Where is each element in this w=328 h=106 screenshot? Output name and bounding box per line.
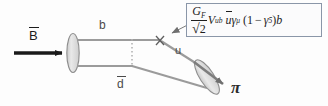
fraction-denominator: √2: [191, 22, 207, 36]
u-spinor-bar: u: [226, 13, 232, 28]
label-dbar-quark-text: d: [117, 77, 124, 91]
feynman-diagram-figure: B b d u π GF √2 Vub uγμ (1 − γ5)b: [0, 0, 328, 106]
paren-open: (1: [243, 13, 253, 28]
label-incoming-bbar: B: [29, 27, 39, 42]
fermi-constant-fraction: GF √2: [191, 5, 207, 37]
ckm-subscript: ub: [215, 16, 223, 25]
label-incoming-bbar-text: B: [29, 28, 38, 43]
weak-vertex-formula: GF √2 Vub uγμ (1 − γ5)b: [191, 5, 319, 36]
fraction-numerator: GF: [191, 5, 206, 20]
ckm-symbol: V: [208, 13, 215, 28]
label-outgoing-pion: π: [231, 79, 240, 96]
gamma-subscript: μ: [236, 16, 240, 25]
weak-vertex-formula-box: GF √2 Vub uγμ (1 − γ5)b: [186, 3, 322, 37]
label-b-quark: b: [99, 19, 106, 31]
label-dbar-quark: d: [117, 76, 126, 90]
b-field-symbol: b: [276, 13, 282, 28]
label-u-quark: u: [175, 45, 181, 56]
minus-sign: −: [255, 13, 262, 28]
